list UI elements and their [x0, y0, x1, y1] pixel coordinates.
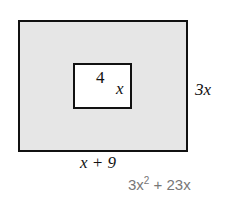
inner-height-label: x — [116, 79, 124, 99]
answer-rest: + 23x — [149, 176, 190, 193]
answer-base: 3x — [128, 176, 144, 193]
inner-width-label: 4 — [96, 68, 105, 88]
outer-height-label: 3x — [195, 80, 211, 100]
outer-width-label: x + 9 — [80, 153, 116, 173]
answer-expression: 3x2 + 23x — [128, 175, 191, 193]
